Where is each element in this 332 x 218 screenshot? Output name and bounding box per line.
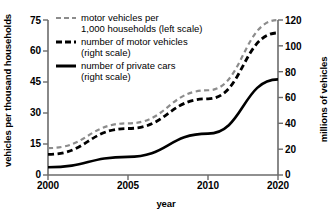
legend-label-motor-vehicles-per-households: motor vehicles per1,000 households (left… (81, 13, 202, 34)
legend-label-line1: motor vehicles per (81, 12, 159, 23)
legend-label-line2: 1,000 households (left scale) (81, 23, 202, 34)
legend-label-line1: number of private cars (81, 60, 176, 71)
legend-solid-black-icon (56, 61, 76, 71)
chart-container: vehicles per thousand households million… (0, 0, 332, 218)
legend-dashed-gray-icon (56, 13, 76, 23)
legend-label-line1: number of motor vehicles (81, 36, 188, 47)
legend-label-number-of-private-cars: number of private cars(right scale) (81, 61, 176, 82)
legend-label-number-of-motor-vehicles: number of motor vehicles(right scale) (81, 37, 188, 58)
legend-label-line2: (right scale) (81, 71, 131, 82)
legend-item-number-of-private-cars: number of private cars(right scale) (56, 61, 176, 82)
series-line-number-of-private-cars (48, 79, 278, 167)
legend-item-number-of-motor-vehicles: number of motor vehicles(right scale) (56, 37, 188, 58)
legend-dashed-black-icon (56, 37, 76, 47)
legend-item-motor-vehicles-per-households: motor vehicles per1,000 households (left… (56, 13, 202, 34)
legend-label-line2: (right scale) (81, 47, 131, 58)
